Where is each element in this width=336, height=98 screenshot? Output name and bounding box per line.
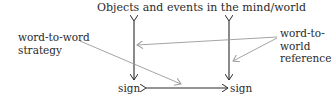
word-to-word-label: word-to-word strategy [18,31,90,56]
diagram-title: Objects and events in the mind/world [97,2,306,15]
word-to-word-line1: word-to-word [18,31,90,44]
word-to-world-line1: word-to- [280,27,331,40]
word-to-world-pointer-right [233,38,277,61]
sign-reference-diagram: Objects and events in the mind/world wor… [0,0,336,98]
word-to-world-pointer-left [137,37,277,45]
sign-right-label: sign [230,82,252,95]
word-to-world-line2: world [280,40,331,53]
word-to-world-label: word-to- world reference [280,27,331,65]
word-to-world-line3: reference [280,52,331,65]
word-to-word-line2: strategy [18,44,90,57]
word-to-word-pointer [80,41,181,84]
sign-left-label: sign [118,82,140,95]
